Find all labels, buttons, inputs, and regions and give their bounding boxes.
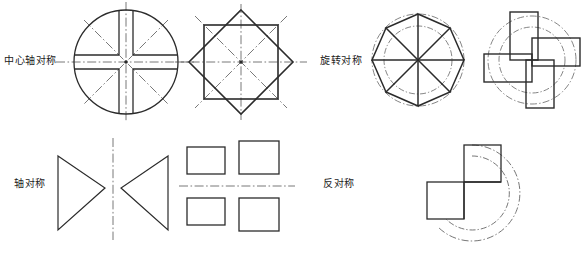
drawing-sheet: 中心轴对称 旋转对称 轴对称 反对称 (0, 0, 587, 253)
construction-arc-outer (438, 145, 520, 241)
l-shape (427, 145, 501, 219)
square-lower (427, 182, 464, 219)
figure-l-shape-with-arcs (0, 0, 587, 253)
square-upper (464, 145, 501, 182)
